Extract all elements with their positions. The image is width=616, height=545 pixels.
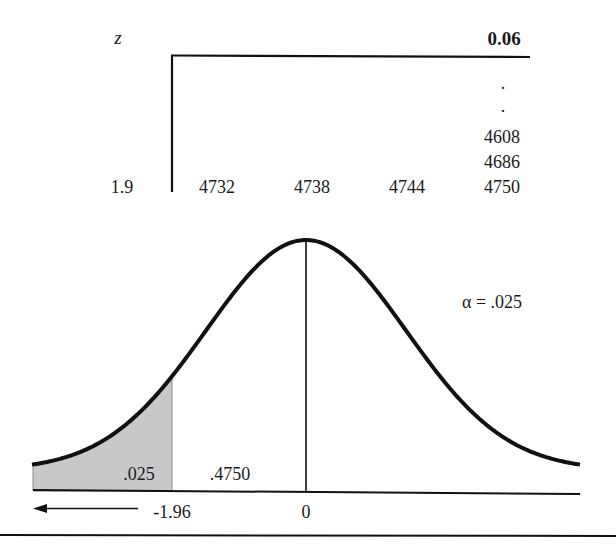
mean-value-label: 0 [302, 502, 311, 522]
normal-curve-plot: α = .025 .025 .4750 -1.96 0 [32, 240, 580, 522]
table-cell: 4744 [389, 177, 425, 197]
table-cell-highlight: 4750 [484, 177, 520, 197]
probability-column-header: 0.06 [487, 28, 520, 49]
left-arrow-icon [33, 504, 138, 513]
z-table-fragment: z 0.06 . . 4608 4686 1.9 4732 4738 4744 … [111, 27, 530, 197]
table-cell: 4738 [294, 177, 330, 197]
ellipsis-dot: . [501, 96, 506, 116]
z-column-header: z [113, 27, 122, 48]
z-table-normal-curve-diagram: z 0.06 . . 4608 4686 1.9 4732 4738 4744 … [0, 0, 616, 545]
table-cell: 4732 [199, 177, 235, 197]
table-cell: 4686 [484, 152, 520, 172]
center-area-label: .4750 [210, 464, 251, 484]
row-label-z: 1.9 [111, 177, 134, 197]
critical-value-label: -1.96 [153, 502, 191, 522]
ellipsis-dot: . [501, 73, 506, 93]
alpha-label: α = .025 [462, 292, 522, 312]
bottom-rule [0, 535, 616, 536]
table-cell: 4608 [484, 127, 520, 147]
left-tail-area-label: .025 [123, 464, 155, 484]
table-top-rule [171, 56, 530, 58]
